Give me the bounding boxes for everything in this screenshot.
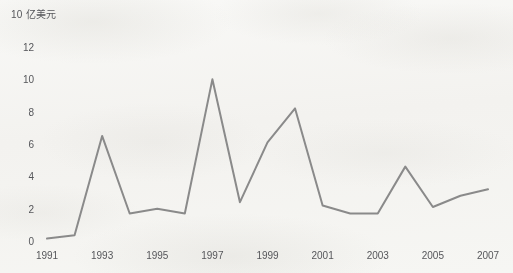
plot-area — [0, 0, 513, 273]
data-series-line — [47, 79, 488, 238]
line-chart: 10 亿美元 024681012 19911993199519971999200… — [0, 0, 513, 273]
